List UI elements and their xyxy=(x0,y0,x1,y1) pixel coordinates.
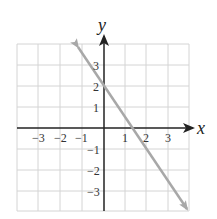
x-tick-label: 1 xyxy=(122,131,128,145)
x-axis-label: x xyxy=(196,118,205,138)
x-tick-labels: −3 −2 −1 1 2 3 xyxy=(32,131,171,145)
y-tick-label: 3 xyxy=(93,59,99,73)
coordinate-plane: x y −3 −2 −1 1 2 3 3 2 1 −1 −2 −3 xyxy=(0,0,217,219)
x-tick-label: 3 xyxy=(165,131,171,145)
x-tick-label: −2 xyxy=(54,131,67,145)
y-axis-label: y xyxy=(96,15,106,35)
x-tick-label: −1 xyxy=(75,131,88,145)
y-tick-label: −2 xyxy=(87,164,100,178)
y-tick-label: −1 xyxy=(87,143,100,157)
y-tick-label: 2 xyxy=(93,80,99,94)
y-tick-label: 1 xyxy=(93,101,99,115)
x-tick-label: 2 xyxy=(143,131,149,145)
y-tick-label: −3 xyxy=(87,185,100,199)
x-tick-label: −3 xyxy=(32,131,45,145)
y-tick-labels: 3 2 1 −1 −2 −3 xyxy=(87,59,100,199)
